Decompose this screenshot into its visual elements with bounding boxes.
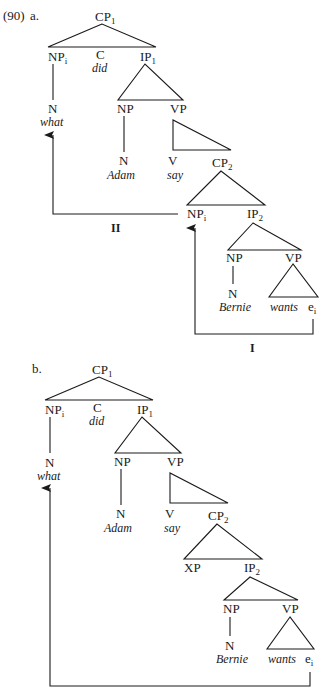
node-subj-n: N xyxy=(116,506,126,521)
node-ip1: IP1 xyxy=(140,49,156,66)
node-cp2: CP2 xyxy=(208,508,228,525)
word-wants: wants xyxy=(270,300,298,314)
node-vp1: VP xyxy=(170,101,187,116)
node-cp2-spec: NPi xyxy=(187,206,207,223)
node-v: V xyxy=(168,153,178,168)
node-ip2: IP2 xyxy=(247,206,263,223)
word-say: say xyxy=(167,168,184,182)
node-subj-np: NP xyxy=(117,101,134,116)
movement-label-ii: II xyxy=(111,221,121,235)
node-ip2: IP2 xyxy=(244,560,260,577)
node-cp2-spec: XP xyxy=(184,560,201,575)
node-subj-np: NP xyxy=(114,454,131,469)
vp1-triangle xyxy=(173,120,231,150)
word-what: what xyxy=(40,115,64,129)
cp2-triangle xyxy=(184,524,262,559)
movement-label-i: I xyxy=(250,341,255,355)
node-emb-np: NP xyxy=(223,601,240,616)
emb-vp-triangle xyxy=(269,264,318,297)
example-number: (90) xyxy=(3,8,25,23)
trace-ei: ei xyxy=(305,651,314,668)
ip1-triangle xyxy=(118,64,183,100)
ip2-triangle xyxy=(228,223,301,250)
emb-vp-triangle xyxy=(267,617,314,649)
node-n-wh: N xyxy=(48,101,58,116)
cp2-triangle xyxy=(187,171,265,205)
node-emb-vp: VP xyxy=(285,250,302,265)
node-cp2: CP2 xyxy=(212,155,232,172)
movement-arrow-i xyxy=(195,228,313,334)
word-bernie: Bernie xyxy=(219,300,252,314)
node-spec-np: NPi xyxy=(45,402,65,419)
node-emb-n: N xyxy=(228,286,238,301)
tree-a-label: a. xyxy=(30,8,39,23)
tree-b-label: b. xyxy=(32,361,42,376)
node-emb-n: N xyxy=(225,638,235,653)
node-emb-np: NP xyxy=(226,250,243,265)
syntax-tree-figure: (90) a. CP1 NPi C did IP1 N what NP VP N… xyxy=(0,0,327,697)
word-adam: Adam xyxy=(106,168,135,182)
word-adam: Adam xyxy=(103,521,132,535)
node-v: V xyxy=(165,506,175,521)
ip2-triangle xyxy=(224,577,298,600)
ip1-triangle xyxy=(115,417,181,453)
tree-b: b. CP1 NPi C did IP1 N what NP VP N Adam… xyxy=(32,361,314,686)
cp1-triangle xyxy=(48,24,156,47)
node-cp1: CP1 xyxy=(95,9,115,26)
trace-ei: ei xyxy=(308,299,317,316)
word-bernie: Bernie xyxy=(216,652,249,666)
node-vp1: VP xyxy=(167,454,184,469)
cp1-triangle xyxy=(45,377,153,400)
node-n-wh: N xyxy=(45,455,55,470)
node-subj-n: N xyxy=(119,153,129,168)
word-did: did xyxy=(92,61,108,75)
node-ip1: IP1 xyxy=(137,402,153,419)
tree-a: (90) a. CP1 NPi C did IP1 N what NP VP N… xyxy=(3,8,318,355)
vp1-triangle xyxy=(170,473,228,503)
node-cp1: CP1 xyxy=(92,362,112,379)
word-wants: wants xyxy=(268,652,296,666)
node-emb-vp: VP xyxy=(282,601,299,616)
node-c: C xyxy=(96,47,105,62)
node-c: C xyxy=(93,400,102,415)
word-say: say xyxy=(164,521,181,535)
word-what: what xyxy=(37,469,61,483)
node-spec-np: NPi xyxy=(48,49,68,66)
word-did: did xyxy=(89,414,105,428)
